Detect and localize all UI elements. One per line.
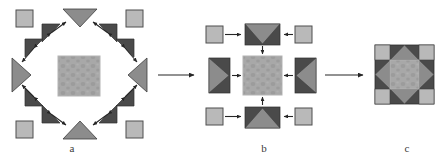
edge-triangle-left (12, 58, 31, 92)
feeder-square-top-left (206, 26, 223, 43)
core-square (58, 56, 100, 96)
feeder-square-bottom-left (206, 108, 223, 125)
corner-square-bottom-right (126, 121, 143, 138)
feeder-square-bottom-right (295, 108, 312, 125)
core-square (243, 56, 282, 95)
edge-triangle-bottom (63, 121, 97, 139)
unit-bottom (245, 107, 280, 128)
edge-triangle-top (63, 9, 97, 27)
panel-label-c: c (397, 142, 417, 154)
corner-square-top-right (126, 10, 143, 27)
panel-c-assembled (375, 45, 434, 104)
feeder-square-top-right (295, 26, 312, 43)
edge-triangle-right (128, 58, 147, 92)
panel-a-dispersed (12, 9, 147, 139)
unit-right (295, 58, 316, 93)
assembled-star-block (375, 45, 434, 104)
unit-left (209, 58, 230, 93)
assembly-figure (0, 0, 444, 164)
unit-top (245, 24, 280, 45)
panel-label-b: b (254, 142, 274, 154)
panel-b-intermediate (206, 24, 316, 128)
panel-label-a: a (62, 142, 82, 154)
corner-square-top-left (16, 10, 33, 27)
corner-square-bottom-left (16, 121, 33, 138)
